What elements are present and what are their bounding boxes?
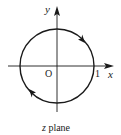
origin-label: O: [45, 69, 52, 79]
diagram-caption: z plane: [42, 123, 70, 133]
caption-text: plane: [46, 122, 70, 133]
unit-tick-label: 1: [95, 69, 100, 79]
y-axis-label: y: [45, 4, 50, 15]
x-axis-label: x: [108, 69, 113, 80]
y-axis: [54, 6, 60, 112]
z-plane-diagram: [0, 0, 121, 135]
